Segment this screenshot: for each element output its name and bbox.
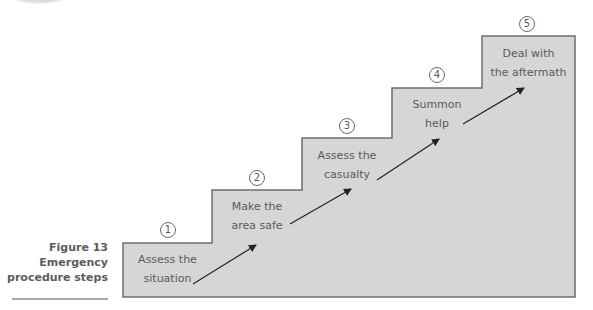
step-2-label: Make the area safe bbox=[212, 197, 302, 235]
figure-number: Figure 13 bbox=[0, 240, 108, 255]
figure-title-line-2: procedure steps bbox=[0, 270, 108, 285]
step-1-label-line-1: Assess the bbox=[123, 250, 212, 269]
step-5-label: Deal with the aftermath bbox=[482, 44, 575, 82]
step-4-label-line-1: Summon bbox=[392, 95, 482, 114]
step-3-label: Assess the casualty bbox=[302, 146, 392, 184]
step-5-label-line-1: Deal with bbox=[482, 44, 575, 63]
step-1-label-line-2: situation bbox=[123, 269, 212, 288]
step-4-number-badge: 4 bbox=[429, 67, 445, 83]
step-3-number-badge: 3 bbox=[339, 118, 355, 134]
step-2-label-line-2: area safe bbox=[212, 216, 302, 235]
step-1-label: Assess the situation bbox=[123, 250, 212, 288]
step-3-label-line-2: casualty bbox=[302, 165, 392, 184]
step-1-number-badge: 1 bbox=[160, 222, 176, 238]
figure-caption: Figure 13 Emergency procedure steps bbox=[0, 240, 108, 285]
step-4-label-line-2: help bbox=[392, 114, 482, 133]
step-2-number-badge: 2 bbox=[249, 170, 265, 186]
caption-underline bbox=[12, 298, 108, 300]
step-3-label-line-1: Assess the bbox=[302, 146, 392, 165]
step-5-label-line-2: the aftermath bbox=[482, 63, 575, 82]
step-2-label-line-1: Make the bbox=[212, 197, 302, 216]
step-5-number-badge: 5 bbox=[519, 16, 535, 32]
figure-title-line-1: Emergency bbox=[0, 255, 108, 270]
step-4-label: Summon help bbox=[392, 95, 482, 133]
